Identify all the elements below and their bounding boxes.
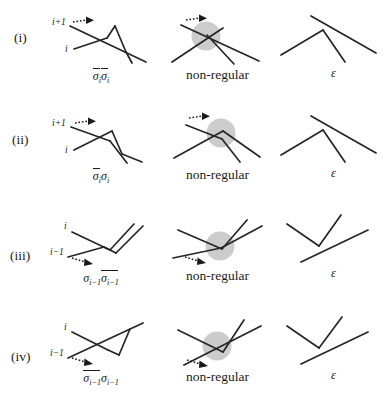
word-part-0-i: σi: [93, 69, 101, 84]
diagram-iii-left: [46, 200, 156, 280]
row-label-ii: (ii): [12, 132, 29, 148]
caption-right-i: ε: [281, 66, 386, 81]
panel-ii-left: i+1 i σiσi: [46, 100, 156, 200]
caption-right-ii: ε: [281, 166, 386, 181]
figure-row-i: (i) i+1 i σiσi: [0, 0, 388, 100]
caption-word-ii: σiσi: [46, 169, 156, 184]
caption-middle-i: non-regular: [160, 67, 275, 83]
row-label-iv: (iv): [11, 349, 31, 365]
figure-row-iv: (iv) i i−1 σi−1σi−1: [0, 300, 388, 400]
word-part-1-iv: σi−1: [101, 371, 119, 385]
panel-iv-left: i i−1 σi−1σi−1: [46, 300, 156, 400]
word-part-1-ii: σi: [101, 169, 109, 183]
word-part-0-iii: σi−1: [83, 271, 101, 285]
panel-i-left: i+1 i σiσi: [46, 0, 156, 100]
diagram-iv-left: [46, 300, 156, 380]
figure-row-iii: (iii) i i−1 σi−1σi−1: [0, 200, 388, 300]
caption-word-i: σiσi: [46, 69, 156, 84]
word-part-1-sub-iii: i−1: [107, 278, 119, 287]
caption-right-iv: ε: [281, 368, 386, 383]
word-part-1-iii: σi−1: [101, 271, 119, 286]
word-part-1-sub-i: i: [107, 76, 109, 85]
word-part-0-sub-iv: i−1: [89, 378, 101, 387]
panel-iv-middle: non-regular: [160, 300, 275, 400]
word-part-1-sub-ii: i: [107, 176, 109, 185]
diagram-ii-left: [46, 100, 156, 180]
word-part-1-i: σi: [101, 69, 109, 84]
word-part-0-ii: σi: [93, 169, 101, 184]
row-label-i: (i): [14, 30, 27, 46]
word-part-0-sub-ii: i: [99, 176, 101, 185]
panel-iii-right: ε: [281, 200, 386, 300]
caption-middle-ii: non-regular: [160, 167, 275, 183]
panel-iii-middle: non-regular: [160, 200, 275, 300]
diagram-iv-middle: [160, 300, 275, 380]
panel-i-right: ε: [281, 0, 386, 100]
panel-ii-middle: non-regular: [160, 100, 275, 200]
caption-right-iii: ε: [281, 266, 386, 281]
non-regular-blob-iii: [206, 232, 235, 261]
word-part-1-sub-iv: i−1: [107, 378, 119, 387]
figure-regularity-cases: (i) i+1 i σiσi: [0, 0, 388, 419]
word-part-0-iv: σi−1: [83, 371, 101, 386]
panel-i-middle: non-regular: [160, 0, 275, 100]
panel-ii-right: ε: [281, 100, 386, 200]
word-part-0-sub-iii: i−1: [89, 278, 101, 287]
row-label-iii: (iii): [10, 248, 30, 264]
panel-iv-right: ε: [281, 300, 386, 400]
panel-iii-left: i i−1 σi−1σi−1: [46, 200, 156, 300]
caption-middle-iv: non-regular: [160, 369, 275, 385]
figure-row-ii: (ii) i+1 i σiσi: [0, 100, 388, 200]
caption-word-iv: σi−1σi−1: [46, 371, 156, 386]
caption-word-iii: σi−1σi−1: [46, 271, 156, 286]
caption-middle-iii: non-regular: [160, 268, 275, 284]
